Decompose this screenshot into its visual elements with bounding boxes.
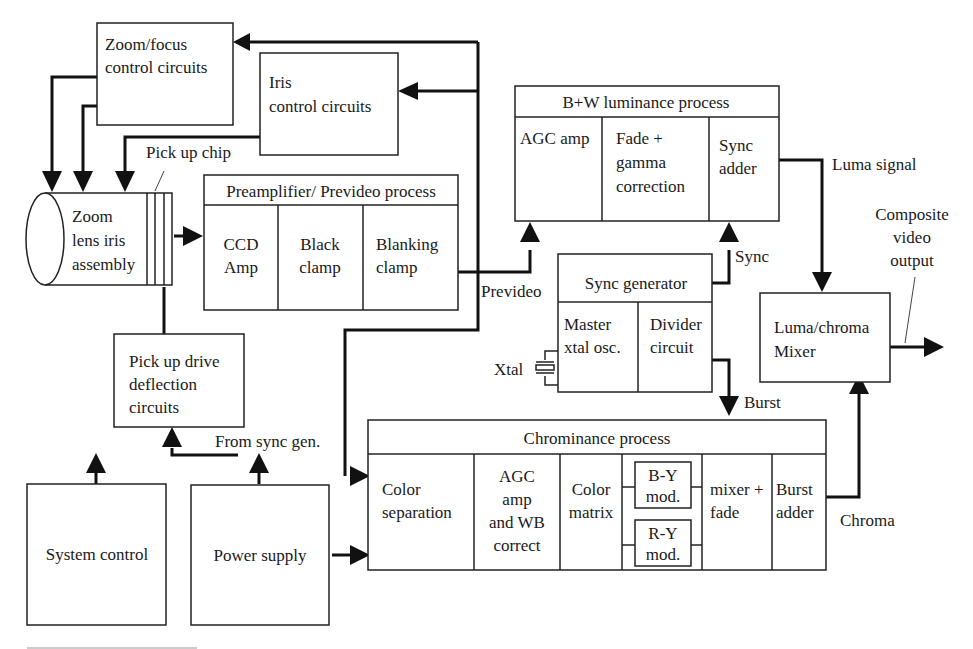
burst-adder-label: adder [776, 503, 814, 522]
chroma-title: Chrominance process [524, 429, 671, 448]
arrow-to-zoom-focus [233, 33, 250, 51]
arrow-down-icon [115, 171, 135, 192]
zoom-lens-iris-assembly: Zoom lens iris assembly [26, 193, 172, 285]
pickup-drive-label: Pick up drive [129, 352, 220, 371]
chrominance-block: Chrominance process Color separation AGC… [368, 420, 826, 570]
arrow-up-icon [162, 427, 182, 447]
ccd-amp-label: Amp [224, 258, 258, 277]
zoom-focus-label: Zoom/focus [105, 35, 187, 54]
luminance-title: B+W luminance process [563, 93, 730, 112]
burst-adder-label: Burst [776, 480, 813, 499]
blanking-clamp-label: clamp [376, 258, 418, 277]
ccd-amp-label: CCD [224, 235, 259, 254]
fade-gamma-label: correction [616, 177, 685, 196]
divider-label: Divider [650, 315, 702, 334]
agc-wb-label: amp [502, 490, 531, 509]
power-supply-label: Power supply [213, 546, 307, 565]
xtal-label: Xtal [494, 360, 524, 379]
agc-wb-label: and WB [489, 513, 545, 532]
chroma-label: Chroma [840, 511, 895, 530]
system-control-label: System control [46, 545, 149, 564]
arrow-right-icon [183, 226, 203, 246]
by-mod-label: B-Y [648, 466, 677, 485]
system-control-block: System control [27, 484, 166, 625]
lens-label: Zoom [72, 207, 113, 226]
arrow-down-icon [812, 272, 832, 292]
from-sync-gen-label: From sync gen. [215, 432, 320, 451]
color-matrix-label: matrix [569, 503, 614, 522]
prevideo-wire [458, 250, 530, 272]
master-osc-label: Master [564, 315, 612, 334]
blanking-clamp-label: Blanking [376, 235, 439, 254]
fade-gamma-label: Fade + [616, 129, 663, 148]
mixer-label: Luma/chroma [774, 318, 870, 337]
zoom-focus-label: control circuits [105, 58, 207, 77]
color-matrix-label: Color [572, 480, 611, 499]
iris-label: Iris [269, 73, 292, 92]
pickup-drive-block: Pick up drive deflection circuits [114, 334, 244, 427]
sync-wire [712, 250, 729, 283]
arrow-up-icon [249, 453, 269, 473]
black-clamp-label: Black [300, 235, 340, 254]
preamp-title: Preamplifier/ Prevideo process [226, 182, 436, 201]
pickup-drive-label: circuits [129, 398, 179, 417]
luma-wire [779, 160, 822, 272]
lens-label: lens iris [72, 231, 125, 250]
agc-wb-label: correct [493, 536, 540, 555]
lens-label: assembly [72, 255, 136, 274]
sync-generator-block: Sync generator Master xtal osc. Divider … [558, 254, 712, 392]
master-osc-label: xtal osc. [564, 338, 621, 357]
composite-output-label: output [890, 251, 934, 270]
sync-gen-title: Sync generator [585, 274, 688, 293]
prevideo-label: Prevideo [481, 282, 541, 301]
crystal-icon [536, 351, 558, 385]
chroma-wire [826, 393, 859, 497]
sync-adder-label: adder [719, 159, 757, 178]
arrow-up-icon [520, 222, 540, 242]
divider-label: circuit [650, 338, 694, 357]
burst-wire [712, 360, 729, 398]
power-supply-block: Power supply [191, 485, 329, 625]
luma-chroma-mixer-block: Luma/chroma Mixer [760, 293, 890, 382]
agc-wb-label: AGC [499, 467, 535, 486]
mixer-fade-label: fade [710, 503, 739, 522]
preamplifier-block: Preamplifier/ Prevideo process CCD Amp B… [204, 175, 458, 310]
black-clamp-label: clamp [299, 258, 341, 277]
iris-control-block: Iris control circuits [260, 53, 398, 155]
burst-label: Burst [744, 393, 781, 412]
zoom-focus-control-block: Zoom/focus control circuits [97, 23, 233, 125]
sync-adder-label: Sync [719, 136, 753, 155]
composite-output-label: Composite [875, 205, 949, 224]
arrow-up-icon [719, 222, 739, 242]
arrow-up-icon [86, 453, 106, 473]
wire-zoom-to-lens-2 [83, 106, 97, 172]
arrow-right-icon [350, 466, 370, 486]
luma-signal-label: Luma signal [832, 155, 917, 174]
arrow-right-icon [350, 545, 370, 565]
arrow-down-icon [719, 396, 739, 416]
color-separation-label: Color [382, 480, 421, 499]
bw-luminance-block: B+W luminance process AGC amp Fade + gam… [515, 86, 779, 221]
ry-mod-label: R-Y [648, 524, 677, 543]
arrow-down-icon [73, 171, 93, 192]
wire-zoom-to-lens-1 [52, 77, 97, 172]
by-mod-label: mod. [646, 487, 680, 506]
camera-block-diagram: Zoom/focus control circuits Iris control… [0, 0, 973, 649]
color-separation-label: separation [382, 503, 452, 522]
composite-leader-line [905, 277, 915, 343]
mixer-fade-label: mixer + [710, 480, 764, 499]
sync-label: Sync [735, 247, 769, 266]
ry-mod-label: mod. [646, 545, 680, 564]
agc-amp-label: AGC amp [520, 129, 589, 148]
pickup-chip-label: Pick up chip [146, 143, 231, 162]
iris-label: control circuits [269, 97, 371, 116]
mixer-label: Mixer [774, 342, 816, 361]
pickup-drive-label: deflection [129, 375, 197, 394]
arrow-right-icon [924, 337, 944, 357]
pickup-chip-leader [155, 171, 164, 191]
composite-output-label: video [893, 228, 931, 247]
arrow-down-icon [42, 171, 62, 192]
arrow-to-iris [398, 82, 418, 100]
fade-gamma-label: gamma [616, 153, 666, 172]
